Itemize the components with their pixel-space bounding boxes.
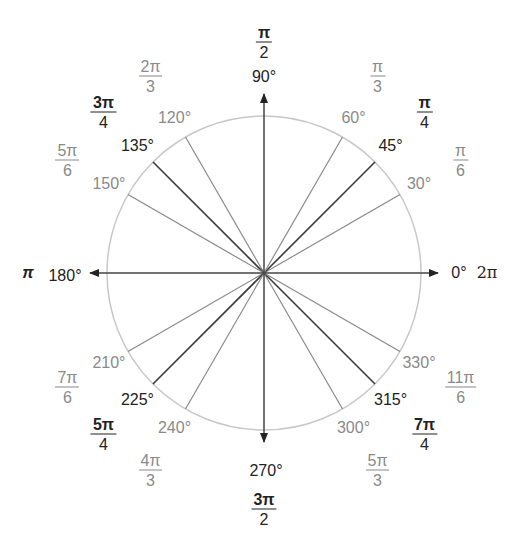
ray-210 [128, 273, 264, 352]
radian-label-60: π3 [370, 58, 385, 95]
ray-30 [264, 195, 400, 274]
radian-label-300: 5π3 [366, 451, 390, 488]
degree-label-300: 300° [337, 420, 370, 436]
ray-60 [264, 137, 343, 273]
degree-label-240: 240° [158, 420, 191, 436]
radian-label-225: 5π4 [91, 415, 116, 452]
ray-240 [186, 273, 265, 409]
ray-300 [264, 273, 343, 409]
axis-label-3pi-over-2: 3π 2 [251, 491, 276, 528]
degree-label-45: 45° [378, 138, 402, 154]
degree-label-210: 210° [92, 355, 125, 371]
degree-label-315: 315° [374, 392, 407, 408]
axis-label-0-degree: 0° [451, 265, 466, 281]
ray-135 [153, 162, 264, 273]
radian-label-45: π4 [416, 94, 432, 131]
degree-label-30: 30° [407, 176, 431, 192]
radian-label-315: 7π4 [412, 415, 437, 452]
radian-label-30: π6 [453, 141, 468, 178]
radian-label-240: 4π3 [139, 451, 163, 488]
radian-label-150: 5π6 [55, 141, 79, 178]
ray-45 [264, 162, 375, 273]
degree-label-225: 225° [121, 392, 154, 408]
ray-330 [264, 273, 400, 352]
degree-label-60: 60° [341, 110, 365, 126]
degree-label-135: 135° [121, 138, 154, 154]
degree-label-330: 330° [402, 355, 435, 371]
axis-label-2pi: 2π [477, 265, 498, 281]
ray-150 [128, 195, 264, 274]
ray-225 [153, 273, 264, 384]
ray-315 [264, 273, 375, 384]
degree-label-120: 120° [158, 110, 191, 126]
radian-label-210: 7π6 [55, 368, 79, 405]
radian-label-330: 11π6 [445, 368, 477, 405]
axis-label-pi: π [22, 265, 33, 281]
radian-label-120: 2π3 [139, 58, 163, 95]
axis-label-180-degree: 180° [48, 268, 81, 284]
radian-label-135: 3π4 [91, 94, 116, 131]
degree-label-150: 150° [92, 176, 125, 192]
axis-label-270-degree: 270° [249, 463, 282, 479]
axis-label-90-degree: 90° [252, 69, 276, 85]
axis-label-pi-over-2: π 2 [256, 24, 272, 61]
ray-120 [186, 137, 265, 273]
